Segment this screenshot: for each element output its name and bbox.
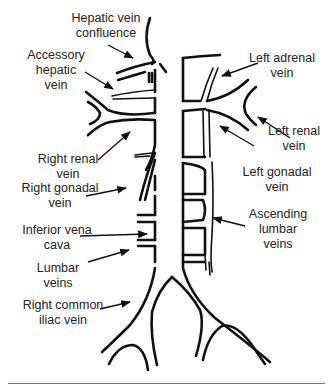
accessory-hepatic-vein-shape	[112, 90, 154, 99]
bottom-divider	[8, 383, 325, 384]
left-gonadal-vein-shape	[203, 111, 210, 157]
right-gonadal-vein-shape	[135, 153, 155, 200]
label-left-renal-vein: Left renal vein	[258, 124, 330, 154]
label-left-gonadal-vein: Left gonadal vein	[232, 165, 322, 195]
label-left-adrenal-vein: Left adrenal vein	[240, 51, 324, 81]
left-renal-vein-shape	[183, 80, 256, 130]
label-right-gonadal-vein: Right gonadal vein	[12, 181, 108, 211]
right-lumbar-stubs	[138, 215, 155, 246]
label-right-common-iliac-vein: Right common iliac vein	[18, 298, 108, 328]
label-hepatic-vein-confluence: Hepatic vein confluence	[56, 11, 156, 41]
label-inferior-vena-cava: Inferior vena cava	[12, 223, 102, 253]
label-accessory-hepatic-vein: Accessory hepatic vein	[20, 48, 92, 93]
left-adrenal-vein-shape	[183, 55, 220, 101]
arrow-hepatic-confluence	[108, 45, 133, 58]
label-ascending-lumbar-veins: Ascending lumbar veins	[240, 207, 316, 252]
arrow-left-gonadal	[220, 126, 254, 146]
label-right-renal-vein: Right renal vein	[28, 152, 108, 182]
hepatic-confluence	[117, 62, 166, 82]
ascending-lumbar-ladder	[183, 157, 213, 272]
label-lumbar-veins: Lumbar veins	[28, 261, 88, 291]
iliac-bifurcation	[109, 255, 265, 370]
